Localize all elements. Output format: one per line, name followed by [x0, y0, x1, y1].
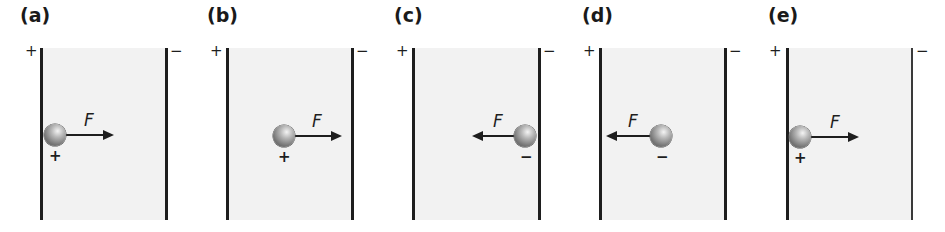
force-arrow-right-icon	[62, 134, 108, 136]
positive-plate	[40, 48, 43, 220]
negative-plate-sign: −	[356, 44, 369, 59]
force-arrow-right-icon	[294, 135, 336, 137]
positive-plate	[599, 48, 602, 220]
positive-plate-sign: +	[396, 44, 409, 59]
positive-plate-sign: +	[210, 44, 223, 59]
particle-charge: +	[49, 149, 62, 164]
panel-label: (a)	[20, 4, 50, 26]
panel-label: (b)	[207, 4, 238, 26]
positive-plate-sign: +	[583, 44, 596, 59]
panel-label: (c)	[394, 4, 423, 26]
force-arrow-left-icon	[612, 135, 652, 137]
negative-plate-sign: −	[170, 44, 183, 59]
negative-plate-sign: −	[543, 44, 556, 59]
panel-label: (e)	[768, 4, 798, 26]
charged-sphere	[650, 125, 672, 147]
particle-charge: −	[656, 150, 669, 165]
negative-plate	[911, 48, 913, 220]
particle-charge: +	[794, 151, 807, 166]
force-label: F	[493, 113, 503, 130]
negative-plate	[538, 48, 541, 220]
force-arrow-right-icon	[808, 136, 853, 138]
charged-sphere	[789, 126, 811, 148]
particle-charge: −	[520, 150, 533, 165]
panel-c: (c) + − F −	[376, 0, 562, 232]
negative-plate	[351, 48, 354, 220]
positive-plate	[412, 48, 415, 220]
force-label: F	[84, 112, 94, 129]
positive-plate	[226, 48, 229, 220]
force-arrow-left-icon	[478, 135, 518, 137]
panel-d: (d) + − F −	[562, 0, 748, 232]
force-label: F	[628, 113, 638, 130]
negative-plate	[165, 48, 168, 220]
positive-plate-sign: +	[769, 44, 782, 59]
charged-sphere	[44, 124, 66, 146]
force-label: F	[830, 114, 840, 131]
panel-e: (e) + − F +	[748, 0, 945, 232]
panel-a: (a) + − F +	[0, 0, 190, 232]
negative-plate	[724, 48, 727, 220]
panel-b: (b) + − F +	[190, 0, 376, 232]
negative-plate-sign: −	[729, 44, 742, 59]
particle-charge: +	[278, 150, 291, 165]
positive-plate-sign: +	[25, 44, 38, 59]
force-label: F	[312, 113, 322, 130]
negative-plate-sign: −	[916, 44, 929, 59]
charged-sphere	[273, 125, 295, 147]
charged-sphere	[514, 125, 536, 147]
panel-label: (d)	[582, 4, 613, 26]
